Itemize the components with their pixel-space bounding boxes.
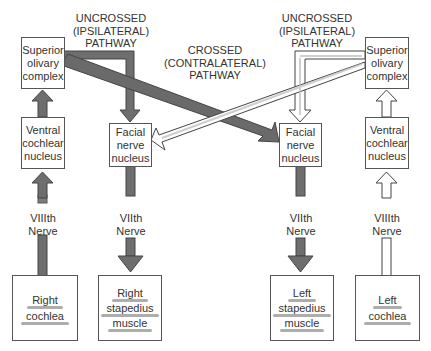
right-cochlea-box: Right cochlea	[12, 275, 78, 341]
box-line: olivary	[27, 57, 59, 70]
box-line: nerve	[117, 139, 145, 152]
right-stapedius-muscle-box: Right stapedius muscle	[98, 275, 162, 341]
label-line: Nerve	[108, 225, 154, 238]
box-line: cochlear	[366, 137, 408, 150]
label-line: (IPSILATERAL)	[278, 25, 356, 38]
label-line: (IPSILATERAL)	[72, 25, 150, 38]
facial-nerve-nucleus-left: Facial nerve nucleus	[279, 123, 322, 167]
label-line: PATHWAY	[278, 37, 356, 50]
box-line: Right	[117, 287, 143, 300]
ventral-cochlear-nucleus-right: Ventral cochlear nucleus	[365, 117, 409, 169]
vcn-to-soc-right-arrow	[376, 90, 397, 117]
facial-nerve-nucleus-right: Facial nerve nucleus	[109, 123, 152, 167]
left-cochlea-box: Left cochlea	[355, 275, 420, 341]
box-line: stapedius	[278, 302, 325, 315]
box-line: Left	[293, 287, 311, 300]
crossed-label: CROSSED (CONTRALATERAL) PATHWAY	[160, 44, 270, 82]
uncrossed-left-label: UNCROSSED (IPSILATERAL) PATHWAY	[72, 12, 150, 50]
label-line: Nerve	[364, 225, 410, 238]
label-line: Nerve	[278, 225, 324, 238]
box-line: muscle	[285, 317, 320, 330]
viii-nerve-left-label: VIIIth Nerve	[20, 212, 66, 237]
label-line: PATHWAY	[160, 69, 270, 82]
superior-olivary-complex-right: Superior olivary complex	[365, 37, 409, 89]
superior-olivary-complex-left: Superior olivary complex	[21, 37, 65, 89]
label-line: UNCROSSED	[278, 12, 356, 25]
label-line: VIIIth	[20, 212, 66, 225]
box-line: Ventral	[26, 124, 60, 137]
box-line: nucleus	[112, 152, 150, 165]
box-line: Left	[378, 294, 396, 307]
vcn-to-soc-left-arrow	[32, 90, 53, 117]
label-line: Nerve	[20, 225, 66, 238]
label-line: VIIth	[278, 212, 324, 225]
box-line: nucleus	[24, 150, 62, 163]
ventral-cochlear-nucleus-left: Ventral cochlear nucleus	[21, 117, 65, 169]
box-line: Facial	[116, 126, 145, 139]
box-line: Right	[32, 294, 58, 307]
box-line: complex	[23, 70, 64, 83]
box-line: muscle	[113, 317, 148, 330]
label-line: CROSSED	[160, 44, 270, 57]
uncrossed-right-label: UNCROSSED (IPSILATERAL) PATHWAY	[278, 12, 356, 50]
left-stapedius-muscle-box: Left stapedius muscle	[270, 275, 334, 341]
label-line: UNCROSSED	[72, 12, 150, 25]
box-line: Superior	[22, 44, 64, 57]
box-line: cochlear	[22, 137, 64, 150]
box-line: nucleus	[368, 150, 406, 163]
box-line: nucleus	[282, 152, 320, 165]
box-line: Superior	[366, 44, 408, 57]
viii-nerve-right-label: VIIIth Nerve	[364, 212, 410, 237]
box-line: cochlea	[26, 310, 64, 323]
vii-nerve-right-side-label: VIIth Nerve	[108, 212, 154, 237]
label-line: VIIth	[108, 212, 154, 225]
box-line: olivary	[371, 57, 403, 70]
label-line: VIIIth	[364, 212, 410, 225]
box-line: Facial	[286, 126, 315, 139]
box-line: nerve	[287, 139, 315, 152]
box-line: Ventral	[370, 124, 404, 137]
label-line: (CONTRALATERAL)	[160, 57, 270, 70]
box-line: complex	[367, 70, 408, 83]
box-line: stapedius	[106, 302, 153, 315]
vii-nerve-left-side-label: VIIth Nerve	[278, 212, 324, 237]
label-line: PATHWAY	[72, 37, 150, 50]
box-line: cochlea	[369, 310, 407, 323]
